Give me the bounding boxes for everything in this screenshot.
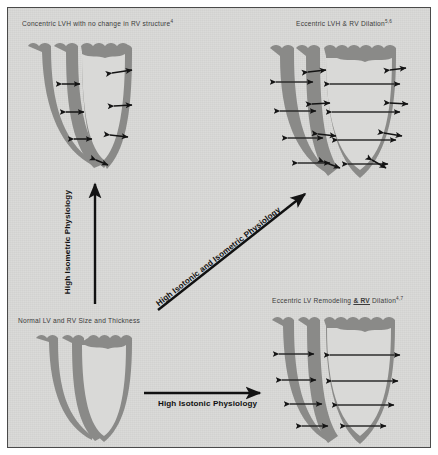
lv-cavity-tr [326,58,392,170]
lv-cavity-br [327,328,391,436]
transition-label-isometric: High Isometric Physiology [63,190,72,294]
heart-top-right [270,45,408,178]
figure-panel: Concentric LVH with no change in RV stru… [7,7,431,448]
figure-root: Concentric LVH with no change in RV stru… [0,0,438,455]
transition-label-isotonic: High Isotonic Physiology [158,399,257,408]
heart-bottom-right [272,317,400,444]
heart-top-left [28,43,132,169]
heart-bottom-left [36,335,132,442]
